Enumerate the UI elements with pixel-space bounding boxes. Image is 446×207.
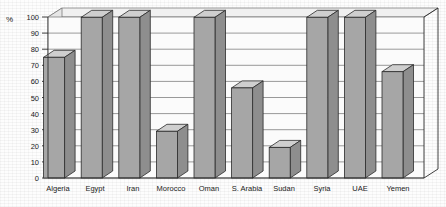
x-label-algeria: Algeria [46, 184, 70, 193]
x-label-morocco: Morocco [157, 184, 186, 193]
bar-chart: % [0, 0, 446, 207]
y-tick-100: 100 [26, 13, 39, 22]
x-label-uae: UAE [352, 184, 367, 193]
bar-s-arabia[interactable] [232, 81, 264, 178]
x-label-sudan: Sudan [273, 184, 295, 193]
y-tick-90: 90 [31, 29, 39, 38]
bar-syria[interactable] [307, 10, 339, 178]
y-tick-60: 60 [31, 77, 39, 86]
x-label-yemen: Yemen [386, 184, 409, 193]
y-axis-tick-labels: 100 90 80 70 60 50 40 30 20 10 0 [26, 13, 39, 183]
y-tick-80: 80 [31, 45, 39, 54]
x-axis-category-labels: Algeria Egypt Iran Morocco Oman S. Arabi… [46, 184, 409, 193]
y-axis-unit-label: % [6, 15, 13, 24]
chart-canvas: % [0, 0, 446, 207]
x-label-oman: Oman [199, 184, 219, 193]
y-tick-40: 40 [31, 110, 39, 119]
bar-yemen[interactable] [382, 65, 414, 178]
x-label-syria: Syria [313, 184, 331, 193]
bar-sudan[interactable] [269, 140, 301, 178]
floor-right-edge [424, 169, 438, 178]
y-tick-20: 20 [31, 142, 39, 151]
bar-iran[interactable] [119, 10, 151, 178]
y-tick-30: 30 [31, 126, 39, 135]
y-tick-0: 0 [35, 174, 39, 183]
y-tick-70: 70 [31, 61, 39, 70]
bar-oman[interactable] [194, 10, 226, 178]
y-tick-50: 50 [31, 94, 39, 103]
x-label-egypt: Egypt [85, 184, 105, 193]
x-label-iran: Iran [127, 184, 140, 193]
bar-egypt[interactable] [81, 10, 113, 178]
y-tick-10: 10 [31, 158, 39, 167]
x-label-s-arabia: S. Arabia [232, 184, 263, 193]
bar-uae[interactable] [344, 10, 376, 178]
bar-morocco[interactable] [156, 124, 188, 178]
